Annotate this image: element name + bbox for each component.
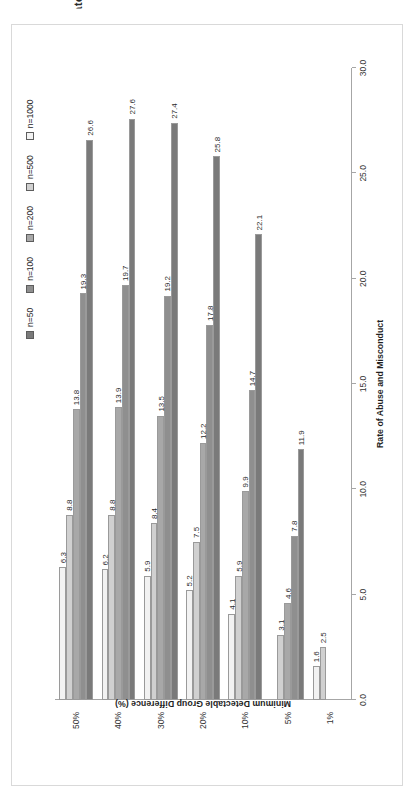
- legend-swatch-icon: [26, 183, 34, 191]
- bar-value-label: 8.4: [149, 508, 158, 519]
- bar-value-label: 12.2: [198, 423, 207, 439]
- value-axis-tick: [352, 383, 356, 384]
- category-axis-title: Rate of Abuse and Misconduct: [375, 68, 385, 700]
- value-axis-tick-label: 10.0: [358, 481, 368, 498]
- bar-value-label: 9.9: [240, 476, 249, 487]
- plot-area: 26.619.313.88.86.327.619.713.98.86.227.4…: [55, 68, 351, 700]
- legend-label: n=50: [25, 308, 35, 327]
- bar-value-label: 17.8: [205, 305, 214, 321]
- value-axis-tick: [352, 488, 356, 489]
- chart-legend: n=50n=100n=200n=500n=1000: [25, 100, 35, 339]
- chart-page: Minimum Detectable Group Difference by R…: [0, 0, 413, 810]
- bar-value-label: 27.4: [169, 103, 178, 119]
- bar-value-label: 5.9: [142, 561, 151, 572]
- legend-label: n=500: [25, 155, 35, 179]
- value-axis-tick-label: 0.0: [358, 694, 368, 706]
- category-axis-label: 10%: [240, 706, 250, 786]
- value-axis-tick-label: 20.0: [358, 270, 368, 287]
- category-axis-label: 30%: [155, 706, 165, 786]
- category-axis-label: 40%: [113, 706, 123, 786]
- bar-value-label: 8.8: [107, 500, 116, 511]
- category-axis-label: 1%: [324, 706, 334, 786]
- category-axis-label: 50%: [71, 706, 81, 786]
- bar-value-label: 5.2: [184, 575, 193, 586]
- value-axis-tick: [352, 67, 356, 68]
- value-axis-tick-label: 15.0: [358, 376, 368, 393]
- legend-item: n=200: [25, 206, 35, 242]
- bar-value-label: 5.9: [234, 561, 243, 572]
- bar-value-label: 11.9: [296, 430, 305, 445]
- value-axis-tick: [352, 278, 356, 279]
- legend-item: n=100: [25, 257, 35, 293]
- value-axis-tick-label: 30.0: [358, 60, 368, 77]
- legend-label: n=1000: [25, 100, 35, 129]
- legend-item: n=500: [25, 155, 35, 191]
- bar-value-label: 6.3: [58, 552, 67, 563]
- value-axis-tick: [352, 699, 356, 700]
- value-axis-tick: [352, 172, 356, 173]
- bar-value-label: 7.5: [191, 527, 200, 538]
- bar-value-label: 8.8: [64, 500, 73, 511]
- legend-label: n=100: [25, 257, 35, 281]
- legend-label: n=200: [25, 206, 35, 230]
- bar-value-label: 19.7: [120, 265, 129, 281]
- bar-value-label: 13.5: [156, 396, 165, 412]
- value-axis-tick: [352, 594, 356, 595]
- bar-value-label: 7.8: [289, 521, 298, 532]
- bar-value-label: 14.7: [247, 371, 256, 387]
- category-axis-label: 20%: [198, 706, 208, 786]
- legend-swatch-icon: [26, 234, 34, 242]
- bar-value-label: 4.1: [227, 599, 236, 610]
- bar-value-label: 19.3: [78, 274, 87, 290]
- rotated-chart-canvas: n=50n=100n=200n=500n=1000 26.619.313.88.…: [11, 24, 403, 786]
- bar: [170, 123, 177, 700]
- bar-value-label: 6.2: [100, 554, 109, 565]
- legend-swatch-icon: [26, 285, 34, 293]
- bar: [128, 119, 135, 700]
- bar-value-label: 19.2: [162, 276, 171, 292]
- bar-value-label: 26.6: [85, 120, 94, 136]
- legend-swatch-icon: [26, 132, 34, 140]
- bar-value-label: 13.9: [113, 388, 122, 404]
- bar-value-label: 27.6: [127, 99, 136, 115]
- value-axis-tick-label: 25.0: [358, 165, 368, 182]
- bar-value-label: 4.6: [283, 588, 292, 599]
- category-axis-label: 5%: [282, 706, 292, 786]
- bar-value-label: 22.1: [254, 215, 263, 231]
- value-axis-tick-label: 5.0: [358, 589, 368, 601]
- legend-item: n=1000: [25, 100, 35, 141]
- legend-item: n=50: [25, 308, 35, 339]
- bar-value-label: 25.8: [212, 137, 221, 153]
- legend-swatch-icon: [26, 331, 34, 339]
- bar-value-label: 13.8: [71, 390, 80, 406]
